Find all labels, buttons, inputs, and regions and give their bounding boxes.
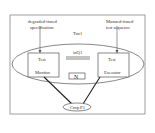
monitor-label-line1: Test — [38, 57, 46, 62]
executor-label-line1: Test — [108, 57, 116, 62]
top-left-label-line2: specification — [30, 25, 53, 30]
right-arrowhead — [116, 50, 119, 53]
monitor-label-line2: Monitor — [35, 70, 50, 75]
queue-label: ioQ1 — [73, 50, 82, 55]
executor-to-component-line — [83, 77, 100, 104]
component-label: Cmp P1 — [70, 105, 85, 110]
tester-label: Tstr1 — [73, 31, 82, 36]
top-right-label-line2: test sequence — [106, 25, 130, 30]
left-arrowhead — [39, 50, 42, 53]
middle-box-symbol: N — [74, 74, 78, 80]
top-left-label-line1: degraded-timed — [28, 19, 57, 24]
monitor-to-component-line — [44, 77, 72, 104]
executor-label-line2: Executor — [104, 70, 121, 75]
top-right-label-line1: Mutated-timed — [106, 19, 133, 24]
